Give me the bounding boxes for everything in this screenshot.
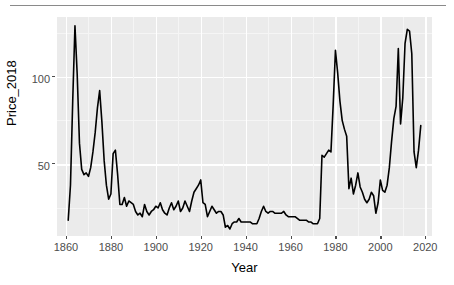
x-axis-tick-mark bbox=[425, 236, 426, 239]
x-axis-tick-label: 1920 bbox=[188, 241, 212, 253]
x-axis-tick-mark bbox=[111, 236, 112, 239]
y-axis-tick-mark bbox=[52, 76, 55, 77]
price-2018-line-chart: 50100 1860188019001920194019601980200020… bbox=[0, 0, 454, 285]
y-axis-tick-mark bbox=[52, 163, 55, 164]
x-axis-tick-label: 1900 bbox=[144, 241, 168, 253]
x-axis-tick-mark bbox=[335, 236, 336, 239]
x-axis-tick-mark bbox=[66, 236, 67, 239]
x-axis-tick-mark bbox=[380, 236, 381, 239]
x-axis-tick-mark bbox=[291, 236, 292, 239]
plot-panel bbox=[57, 17, 432, 236]
x-axis-title: Year bbox=[57, 260, 432, 275]
series-polyline bbox=[68, 26, 421, 229]
y-axis-tick: 50 bbox=[0, 156, 57, 174]
y-axis-tick-label: 50 bbox=[38, 160, 57, 172]
x-axis-tick-label: 1860 bbox=[54, 241, 78, 253]
x-axis-tick-label: 1940 bbox=[233, 241, 257, 253]
x-axis-tick-mark bbox=[156, 236, 157, 239]
y-axis-tick-label: 100 bbox=[32, 73, 57, 85]
x-axis-tick-label: 2000 bbox=[368, 241, 392, 253]
x-axis-tick-label: 1960 bbox=[278, 241, 302, 253]
x-axis-tick-label: 1880 bbox=[99, 241, 123, 253]
x-axis-tick-label: 1980 bbox=[323, 241, 347, 253]
price-series-line bbox=[57, 17, 432, 236]
x-axis-tick-mark bbox=[246, 236, 247, 239]
x-axis-tick-label: 2020 bbox=[413, 241, 437, 253]
x-axis-tick-mark bbox=[201, 236, 202, 239]
y-axis-title: Price_2018 bbox=[4, 60, 19, 126]
